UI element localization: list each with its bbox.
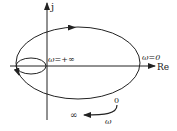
legend-arrow-icon — [84, 105, 117, 115]
omega-infinity-label: ω=+∞ — [48, 55, 75, 64]
real-axis-label: Re — [157, 62, 169, 72]
legend-end-label: ∞ — [70, 110, 78, 120]
nyquist-diagram: j Re ω=+∞ ω=0 0 ∞ ω — [0, 0, 177, 131]
nyquist-curve-outer — [16, 27, 140, 99]
legend-start-label: 0 — [114, 96, 119, 105]
legend-variable-label: ω — [105, 117, 112, 126]
imaginary-axis-label: j — [50, 1, 54, 12]
omega-zero-label: ω=0 — [142, 53, 160, 62]
